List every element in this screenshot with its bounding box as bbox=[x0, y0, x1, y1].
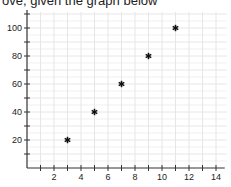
y-tick-label: 80 bbox=[12, 51, 22, 61]
x-tick-label: 14 bbox=[211, 172, 221, 182]
y-tick-label: 100 bbox=[7, 23, 22, 33]
x-tick-label: 6 bbox=[105, 172, 110, 182]
scatter-chart: 2468101214 20406080100 bbox=[0, 0, 231, 187]
y-tick-label: 20 bbox=[12, 135, 22, 145]
x-tick-label: 10 bbox=[157, 172, 167, 182]
grid-lines bbox=[27, 12, 227, 168]
x-tick-label: 12 bbox=[184, 172, 194, 182]
x-tick-label: 2 bbox=[51, 172, 56, 182]
y-tick-label: 40 bbox=[12, 107, 22, 117]
x-tick-label: 4 bbox=[78, 172, 83, 182]
x-tick-label: 8 bbox=[132, 172, 137, 182]
y-tick-label: 60 bbox=[12, 79, 22, 89]
x-axis-tick-labels: 2468101214 bbox=[51, 172, 221, 182]
y-axis-tick-labels: 20406080100 bbox=[7, 23, 22, 145]
